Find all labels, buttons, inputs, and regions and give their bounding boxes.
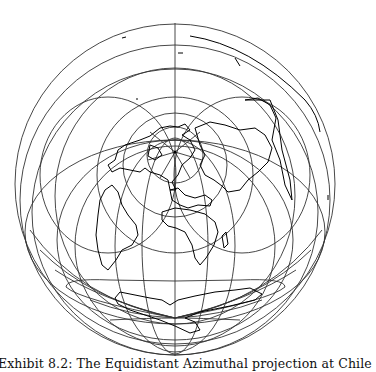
figure-caption: Exhibit 8.2: The Equidistant Azimuthal p… — [0, 356, 376, 371]
coast-north-america — [108, 124, 195, 190]
coast-asia — [195, 122, 272, 192]
north-pole-marker — [174, 151, 177, 154]
world-map — [0, 0, 351, 356]
